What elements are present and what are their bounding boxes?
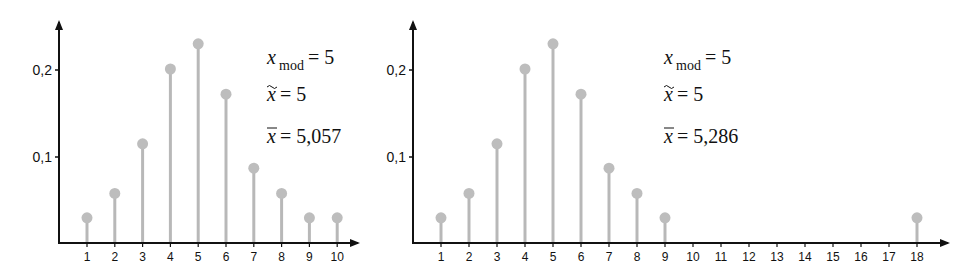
stem-marker — [604, 163, 615, 174]
left-stem-chart: 0,2 0,1 12345678910 x mod = 5 x = 5 x = … — [33, 22, 358, 264]
x-tick-label: 5 — [195, 250, 202, 264]
stem — [520, 64, 531, 244]
stem-marker — [576, 89, 587, 100]
stem — [660, 212, 671, 243]
left-stats: x mod = 5 x = 5 x = 5,057 — [266, 46, 341, 147]
x-tick-label: 17 — [882, 250, 896, 264]
x-tick-label: 12 — [742, 250, 756, 264]
x-tick-label: 11 — [715, 250, 728, 264]
x-tick-label: 10 — [331, 250, 345, 264]
right-mean-value: = 5,286 — [677, 125, 738, 147]
right-stem-chart: 0,2 0,1 123456789101112131415161718 x mo… — [387, 22, 948, 264]
right-mode-subscript: mod — [676, 58, 701, 73]
x-tick-label: 6 — [578, 250, 585, 264]
stem-marker — [165, 64, 176, 75]
x-tick-label: 13 — [770, 250, 784, 264]
right-ytick-0-1: 0,1 — [387, 149, 407, 165]
x-tick-label: 7 — [606, 250, 613, 264]
x-tick-label: 5 — [550, 250, 557, 264]
stem-marker — [193, 38, 204, 49]
x-tick-label: 2 — [111, 250, 118, 264]
stem-marker — [248, 163, 259, 174]
stem-marker — [332, 212, 343, 223]
left-x-ticks: 12345678910 — [84, 243, 345, 264]
stem-marker — [492, 138, 503, 149]
x-tick-label: 8 — [634, 250, 641, 264]
stem-marker — [276, 188, 287, 199]
x-tick-label: 4 — [522, 250, 529, 264]
stem — [332, 212, 343, 243]
x-tick-label: 10 — [686, 250, 700, 264]
left-mean-value: = 5,057 — [280, 125, 341, 147]
stem-marker — [548, 38, 559, 49]
stem — [193, 38, 204, 243]
stem — [464, 188, 475, 243]
stem — [436, 212, 447, 243]
stem-marker — [632, 188, 643, 199]
left-mode-symbol: x — [266, 46, 276, 68]
x-tick-label: 18 — [910, 250, 924, 264]
right-ytick-0-2: 0,2 — [387, 62, 407, 78]
stem-marker — [660, 212, 671, 223]
x-tick-label: 4 — [167, 250, 174, 264]
x-tick-label: 3 — [494, 250, 501, 264]
stem — [165, 64, 176, 244]
left-median-value: = 5 — [280, 83, 306, 105]
stem — [576, 89, 587, 243]
left-ytick-0-1: 0,1 — [33, 149, 53, 165]
x-tick-label: 3 — [139, 250, 146, 264]
stem-marker — [464, 188, 475, 199]
left-ytick-0-2: 0,2 — [33, 62, 53, 78]
x-tick-label: 1 — [438, 250, 445, 264]
stem-marker — [137, 138, 148, 149]
x-tick-label: 14 — [798, 250, 812, 264]
right-median-value: = 5 — [677, 83, 703, 105]
x-tick-label: 16 — [854, 250, 868, 264]
stem — [276, 188, 287, 243]
x-tick-label: 9 — [306, 250, 313, 264]
stem — [82, 212, 93, 243]
x-tick-label: 9 — [662, 250, 669, 264]
x-tick-label: 2 — [466, 250, 473, 264]
x-tick-label: 15 — [826, 250, 840, 264]
stem-marker — [912, 212, 923, 223]
x-tick-label: 7 — [250, 250, 257, 264]
stem — [492, 138, 503, 243]
stem-marker — [221, 89, 232, 100]
stem — [109, 188, 120, 243]
x-tick-label: 8 — [278, 250, 285, 264]
charts-canvas: 0,2 0,1 12345678910 x mod = 5 x = 5 x = … — [0, 0, 977, 270]
stem — [604, 163, 615, 243]
stem-marker — [82, 212, 93, 223]
stem — [304, 212, 315, 243]
stem-marker — [520, 64, 531, 75]
right-mode-symbol: x — [663, 46, 673, 68]
stem-marker — [304, 212, 315, 223]
stem — [248, 163, 259, 243]
stem — [221, 89, 232, 243]
x-tick-label: 6 — [223, 250, 230, 264]
stem — [548, 38, 559, 243]
stem — [137, 138, 148, 243]
x-tick-label: 1 — [84, 250, 91, 264]
stem-marker — [436, 212, 447, 223]
left-mode-value: = 5 — [308, 46, 334, 68]
stem — [632, 188, 643, 243]
right-x-ticks: 123456789101112131415161718 — [438, 243, 924, 264]
stem — [912, 212, 923, 243]
left-mode-subscript: mod — [279, 58, 304, 73]
right-stats: x mod = 5 x = 5 x = 5,286 — [663, 46, 738, 147]
stem-marker — [109, 188, 120, 199]
right-mode-value: = 5 — [705, 46, 731, 68]
